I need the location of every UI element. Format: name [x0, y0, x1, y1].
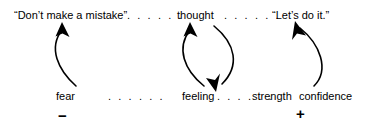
arrow-thought-to-feeling: [214, 26, 233, 84]
node-thought: thought: [177, 10, 214, 21]
node-strength: strength: [252, 91, 292, 102]
node-feeling: feeling: [182, 91, 214, 102]
node-fear: fear: [56, 91, 75, 102]
arrow-fear-to-quote: [55, 30, 76, 86]
dots-bottom-left: . . . . . .: [108, 91, 165, 102]
node-confidence: confidence: [299, 91, 352, 102]
quote-dont-make-mistake: “Don’t make a mistake”: [14, 10, 127, 21]
quote-lets-do-it: “Let’s do it.”: [272, 10, 329, 21]
arrow-feeling-to-thought: [183, 30, 204, 86]
arrowhead-fear-to-quote: [56, 22, 70, 37]
diagram-canvas: “Don’t make a mistake” . . . . . . thoug…: [0, 0, 365, 128]
arrow-confidence-to-quote: [300, 28, 322, 86]
arrowhead-feeling-to-thought: [184, 22, 198, 37]
minus-sign: −: [58, 108, 67, 123]
dots-top-left: . . . . . .: [127, 10, 184, 21]
plus-sign: +: [296, 106, 305, 121]
